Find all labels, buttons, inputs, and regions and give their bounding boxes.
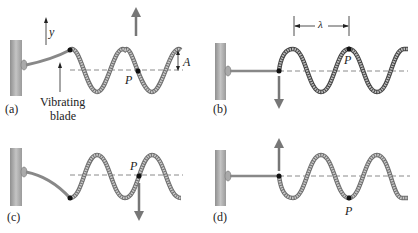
- wave: [70, 155, 181, 198]
- blade-tip-dot: [68, 196, 73, 201]
- wall: [10, 148, 22, 206]
- point-p-label-a: P: [125, 74, 132, 86]
- amplitude-label: A: [183, 56, 190, 68]
- point-p-dot: [347, 196, 352, 201]
- blade-label-line2: blade: [50, 110, 76, 122]
- blade-tip-dot: [277, 174, 282, 179]
- y-axis-label: y: [49, 26, 54, 38]
- point-p-dot: [136, 69, 141, 74]
- panel-label-d: (d): [213, 211, 227, 223]
- panel-label-c: (c): [7, 211, 20, 223]
- blade-tip-dot: [68, 48, 73, 53]
- point-p-label-d: P: [345, 205, 352, 217]
- point-p-label-b: P: [344, 54, 351, 66]
- point-p-dot: [347, 47, 352, 52]
- blade-label-line1: Vibrating: [40, 96, 85, 108]
- wall: [10, 40, 22, 96]
- wall: [215, 43, 226, 100]
- panel-label-b: (b): [213, 103, 227, 115]
- point-p-dot: [137, 174, 142, 179]
- panel-a: [10, 7, 183, 96]
- panel-d: [215, 138, 410, 206]
- vibrating-blade: [26, 172, 70, 198]
- wall: [215, 150, 226, 206]
- panel-b: [215, 16, 408, 109]
- panel-label-a: (a): [5, 103, 18, 115]
- point-p-label-c: P: [130, 160, 137, 172]
- blade-tip-dot: [277, 69, 282, 74]
- panel-c: [10, 148, 183, 221]
- wavelength-label: λ: [318, 19, 323, 30]
- vibrating-blade: [26, 50, 70, 65]
